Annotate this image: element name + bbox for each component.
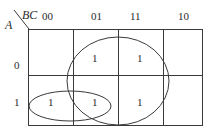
- kmap-grid: [29, 30, 203, 126]
- karnaugh-map: A BC 00 01 11 10 0 1 1 1 1 1 1: [0, 0, 214, 130]
- cell-0-01: 1: [92, 52, 98, 64]
- cell-0-11: 1: [137, 52, 143, 64]
- cell-1-00: 1: [48, 96, 54, 108]
- row-label-0: 0: [14, 59, 20, 71]
- row-label-1: 1: [14, 96, 20, 108]
- column-variable-label: BC: [22, 8, 38, 22]
- col-label-01: 01: [91, 10, 102, 22]
- cell-1-01: 1: [92, 96, 98, 108]
- col-label-00: 00: [42, 10, 54, 22]
- col-label-11: 11: [130, 10, 141, 22]
- row-variable-label: A: [4, 18, 13, 32]
- col-label-10: 10: [178, 10, 190, 22]
- cell-1-11: 1: [137, 96, 143, 108]
